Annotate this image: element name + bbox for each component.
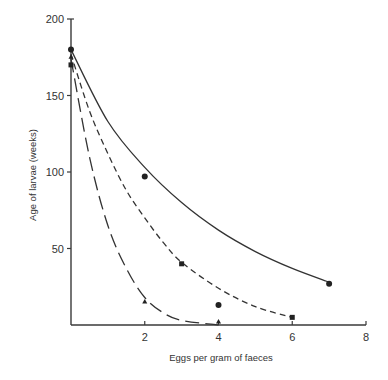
x-tick-label: 4 <box>215 331 221 343</box>
fit-curves <box>71 50 329 325</box>
curve-squares <box>71 54 292 317</box>
chart: 501001502002468 Eggs per gram of faeces … <box>0 0 388 380</box>
y-tick-label: 200 <box>46 13 64 25</box>
square-marker <box>69 62 74 67</box>
triangle-marker <box>69 54 74 59</box>
data-markers <box>68 47 332 324</box>
x-axis-title: Eggs per gram of faeces <box>169 352 273 363</box>
curve-circles <box>71 50 329 283</box>
circle-marker <box>142 174 148 180</box>
curve-triangles <box>71 59 219 325</box>
x-tick-label: 8 <box>363 331 369 343</box>
circle-marker <box>68 47 74 53</box>
y-tick-label: 50 <box>52 243 64 255</box>
square-marker <box>179 261 184 266</box>
x-tick-label: 6 <box>289 331 295 343</box>
circle-marker <box>326 281 332 287</box>
square-marker <box>290 315 295 320</box>
y-tick-label: 100 <box>46 166 64 178</box>
y-axis-title: Age of larvae (weeks) <box>27 129 38 221</box>
triangle-marker <box>142 299 147 304</box>
circle-marker <box>216 302 222 308</box>
x-tick-label: 2 <box>142 331 148 343</box>
triangle-marker <box>216 319 221 324</box>
y-tick-label: 150 <box>46 90 64 102</box>
